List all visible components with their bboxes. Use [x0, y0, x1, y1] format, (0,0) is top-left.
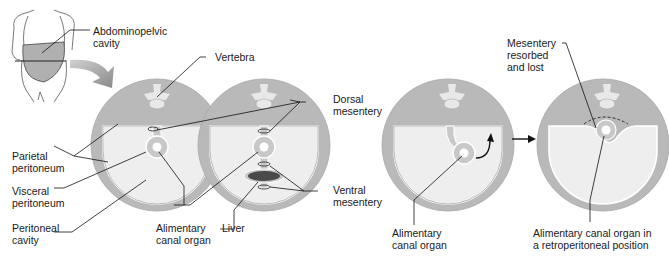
curved-arrow-icon — [70, 60, 114, 88]
abdominopelvic-region — [23, 42, 65, 82]
label-alimentary-canal-organ: Alimentary canal organ — [156, 222, 211, 246]
label-liver: Liver — [222, 222, 245, 234]
cross-section-3 — [382, 79, 514, 211]
label-vertebra: Vertebra — [215, 51, 255, 63]
label-retroperitoneal-position: Alimentary canal organ in a retroperiton… — [533, 227, 651, 251]
liver-shape — [248, 171, 280, 181]
label-visceral-peritoneum: Visceral peritoneum — [12, 185, 65, 209]
label-ventral-mesentery: Ventral mesentery — [333, 184, 382, 208]
label-dorsal-mesentery: Dorsal mesentery — [333, 93, 382, 117]
label-alimentary-canal-organ-2: Alimentary canal organ — [392, 227, 447, 251]
label-abdominopelvic-cavity: Abdominopelvic cavity — [93, 25, 167, 49]
label-peritoneal-cavity: Peritoneal cavity — [12, 222, 59, 246]
label-parietal-peritoneum: Parietal peritoneum — [12, 150, 65, 174]
cross-section-4 — [537, 79, 669, 211]
label-mesentery-resorbed: Mesentery resorbed and lost — [507, 37, 556, 73]
